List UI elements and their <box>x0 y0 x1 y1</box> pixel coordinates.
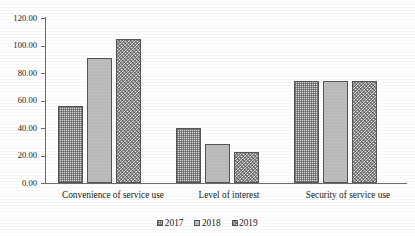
bar-2017-security-of-service-use <box>294 81 319 183</box>
bar-2018-convenience-of-service-use <box>87 58 112 183</box>
legend-item-2017[interactable]: 2017 <box>157 218 183 228</box>
bar-2019-level-of-interest <box>234 152 259 183</box>
y-tick-40 <box>41 128 45 129</box>
y-tick-label-100: 100.00 <box>13 41 37 50</box>
bar-group-convenience-of-service-use <box>56 18 166 183</box>
legend-swatch-2018-icon <box>194 220 200 226</box>
y-tick-label-80: 80.00 <box>18 69 37 78</box>
legend-item-2019[interactable]: 2019 <box>232 218 258 228</box>
y-tick-60 <box>41 101 45 102</box>
y-tick-label-20: 20.00 <box>18 151 37 160</box>
x-axis-category-labels: Convenience of service use Level of inte… <box>46 189 406 205</box>
legend-swatch-2019-icon <box>232 220 238 226</box>
y-tick-label-120: 120.00 <box>13 14 37 23</box>
y-tick-label-0: 0.00 <box>22 179 37 188</box>
plot-area <box>46 18 406 183</box>
y-tick-label-40: 40.00 <box>18 124 37 133</box>
category-label-security-of-service-use: Security of service use <box>278 189 415 201</box>
bar-2018-level-of-interest <box>205 144 230 183</box>
y-tick-100 <box>41 46 45 47</box>
bar-2019-convenience-of-service-use <box>116 39 141 183</box>
x-axis-line <box>45 183 407 184</box>
bar-chart: 120.00 100.00 80.00 60.00 40.00 20.00 0.… <box>0 0 415 236</box>
bar-2018-security-of-service-use <box>323 81 348 183</box>
legend-label-2018: 2018 <box>202 218 221 228</box>
bar-group-level-of-interest <box>174 18 284 183</box>
y-tick-80 <box>41 73 45 74</box>
legend-label-2017: 2017 <box>165 218 184 228</box>
chart-legend: 2017 2018 2019 <box>0 215 415 231</box>
bar-2017-level-of-interest <box>176 128 201 183</box>
legend-swatch-2017-icon <box>157 220 163 226</box>
bar-2019-security-of-service-use <box>352 81 377 183</box>
legend-label-2019: 2019 <box>239 218 258 228</box>
bar-2017-convenience-of-service-use <box>58 106 83 183</box>
legend-item-2018[interactable]: 2018 <box>194 218 220 228</box>
y-tick-120 <box>41 18 45 19</box>
y-tick-20 <box>41 156 45 157</box>
category-label-level-of-interest: Level of interest <box>164 189 294 201</box>
bar-group-security-of-service-use <box>292 18 402 183</box>
y-tick-label-60: 60.00 <box>18 96 37 105</box>
